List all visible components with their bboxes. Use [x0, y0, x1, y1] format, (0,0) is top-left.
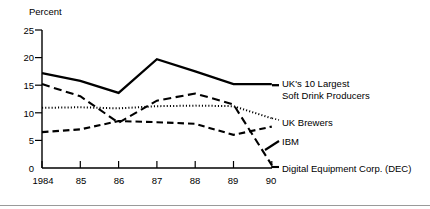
legend-soft-drink-line2: Soft Drink Producers: [282, 90, 370, 102]
legend-label-ibm: IBM: [282, 136, 299, 148]
legend-label-soft-drink: UK's 10 Largest Soft Drink Producers: [282, 78, 370, 101]
series-line-soft-drink: [42, 59, 272, 93]
leader-ibm: [265, 141, 279, 150]
leader-uk-brewers: [272, 118, 279, 120]
series-line-dec: [42, 121, 272, 135]
series-line-ibm: [42, 84, 272, 165]
legend-soft-drink-line1: UK's 10 Largest: [282, 78, 370, 90]
line-chart-figure: Percent 25 20 15 10 5 0 1984 85 86 87 88…: [0, 0, 430, 209]
plot-area: [0, 0, 430, 209]
legend-label-dec: Digital Equipment Corp. (DEC): [282, 163, 411, 175]
bottom-rule: [0, 205, 430, 206]
legend-label-uk-brewers: UK Brewers: [282, 117, 333, 129]
